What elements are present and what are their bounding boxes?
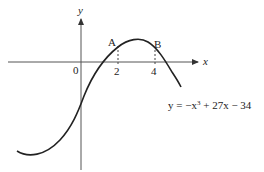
x-tick-2: 2 xyxy=(114,65,120,77)
equation-prefix: y = −x xyxy=(168,99,197,111)
equation-suffix: + 27x − 34 xyxy=(200,99,251,111)
x-axis-label: x xyxy=(202,55,208,67)
function-graph: y x 0 2 4 A B y = −x3 + 27x − 34 xyxy=(0,0,264,172)
y-axis-label: y xyxy=(77,4,83,16)
origin-label: 0 xyxy=(73,64,79,76)
x-tick-4: 4 xyxy=(151,65,157,77)
cubic-curve xyxy=(17,39,181,155)
curve-equation: y = −x3 + 27x − 34 xyxy=(168,99,252,111)
point-a-label: A xyxy=(108,36,116,48)
point-b-label: B xyxy=(154,38,161,50)
